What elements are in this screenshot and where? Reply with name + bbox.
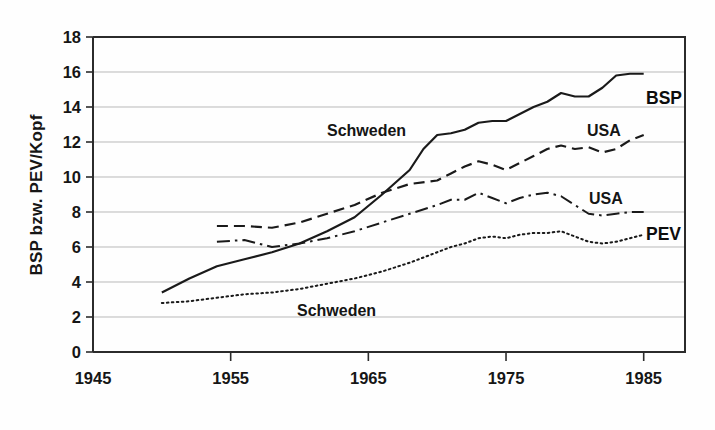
y-tick-label: 10 xyxy=(63,168,81,186)
x-tick-label: 1955 xyxy=(212,369,249,387)
y-tick-label: 16 xyxy=(63,63,81,81)
y-tick-labels-group: 024681012141618 xyxy=(63,28,82,361)
annotation-usa-bsp: USA xyxy=(587,122,621,139)
annotation-pev-group: PEV xyxy=(646,224,681,244)
annotation-bsp-group: BSP xyxy=(646,88,682,108)
line-chart-canvas: 024681012141618 19451955196519751985 Sch… xyxy=(0,0,715,430)
annotation-schweden-pev: Schweden xyxy=(297,302,376,319)
y-tick-label: 18 xyxy=(63,28,81,46)
y-tick-label: 8 xyxy=(72,203,81,221)
x-tick-labels-group: 19451955196519751985 xyxy=(75,369,662,387)
y-tick-label: 14 xyxy=(63,98,82,116)
y-tick-label: 2 xyxy=(72,308,81,326)
y-tick-label: 12 xyxy=(63,133,81,151)
y-tickmarks-group xyxy=(86,37,93,352)
x-tick-label: 1965 xyxy=(350,369,387,387)
x-tick-label: 1975 xyxy=(488,369,525,387)
series-line-schweden-pev xyxy=(162,231,644,303)
x-tickmarks-group xyxy=(231,352,644,361)
series-group xyxy=(162,74,644,303)
annotation-schweden-bsp: Schweden xyxy=(327,122,406,139)
series-line-usa-pev xyxy=(217,193,644,247)
annotation-usa-pev: USA xyxy=(589,190,623,207)
series-line-usa-bsp xyxy=(217,135,644,228)
x-tick-label: 1945 xyxy=(75,369,112,387)
x-tick-label: 1985 xyxy=(625,369,662,387)
chart-figure: BSP bzw. PEV/Kopf 024681012141618 194519… xyxy=(0,0,715,430)
y-tick-label: 4 xyxy=(72,273,82,291)
y-tick-label: 0 xyxy=(72,343,81,361)
y-tick-label: 6 xyxy=(72,238,81,256)
